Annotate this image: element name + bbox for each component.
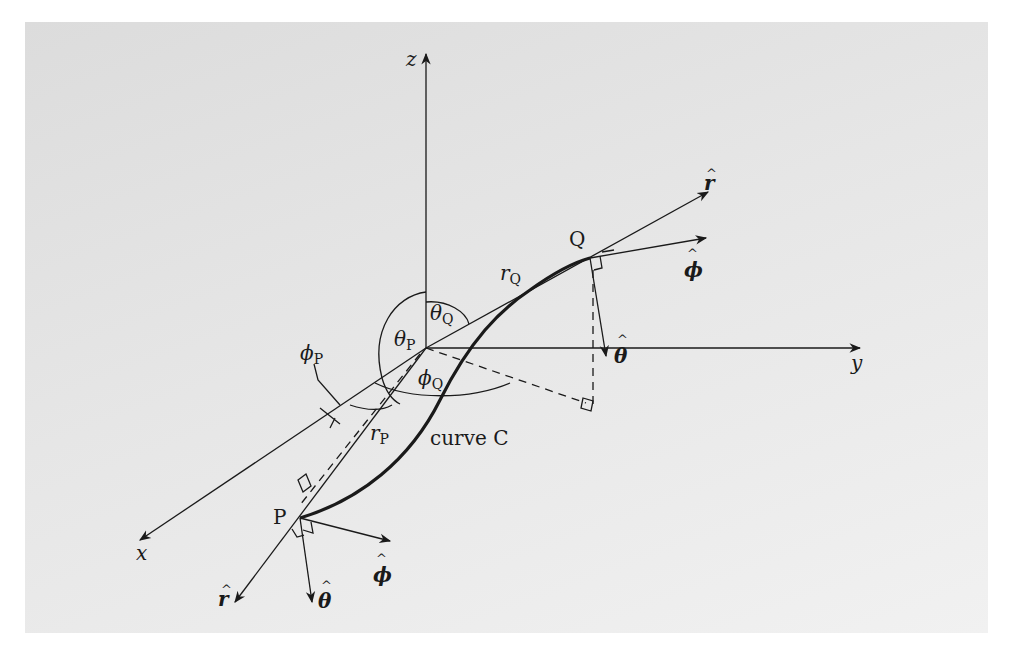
phi-P-bracket	[320, 408, 340, 428]
right-angle-Q-projection	[581, 398, 593, 411]
phi-hat-P-label: ^ ϕ	[373, 551, 392, 587]
right-angle-P-projection	[298, 474, 311, 492]
phi-P-leader	[314, 364, 340, 405]
right-angle-P-2	[303, 522, 313, 533]
radius-P-line	[235, 348, 426, 602]
theta-hat-Q-symbol: θ	[614, 344, 628, 368]
projection-Q-to-origin	[426, 348, 586, 403]
z-axis-label: z	[405, 47, 417, 71]
phi-hat-P-symbol: ϕ	[373, 563, 392, 587]
curve-C-label: curve C	[430, 426, 508, 450]
right-angle-Q-1	[594, 256, 602, 270]
theta-P-label: θP	[394, 327, 415, 353]
phi-hat-P-arrow	[300, 518, 390, 541]
phi-hat-Q-label: ^ ϕ	[684, 246, 703, 282]
phi-hat-Q-symbol: ϕ	[684, 258, 703, 282]
r-hat-Q-label: ^ r	[704, 166, 717, 195]
x-axis-label: x	[136, 541, 147, 565]
phi-Q-label: ϕQ	[418, 366, 443, 392]
y-axis-label: y	[850, 351, 863, 375]
point-P-label: P	[273, 505, 286, 529]
radius-Q-label: rQ	[500, 261, 521, 287]
radius-P-label: rP	[370, 421, 389, 447]
projection-P-to-origin	[300, 354, 420, 505]
theta-hat-Q-label: ^ θ	[614, 332, 628, 368]
spherical-coordinates-diagram: z y x Q P curve C rQ rP θQ θP ϕQ ϕP ^ r …	[0, 0, 1013, 655]
radius-Q-line	[426, 192, 708, 348]
phi-P-arc	[350, 405, 392, 410]
theta-hat-P-symbol: θ	[318, 589, 332, 613]
theta-hat-P-label: ^ θ	[318, 578, 332, 613]
phi-P-label: ϕP	[300, 341, 323, 367]
point-Q-label: Q	[569, 227, 585, 251]
r-hat-P-symbol: r	[218, 587, 230, 611]
curve-C	[300, 258, 590, 518]
r-hat-Q-symbol: r	[704, 171, 716, 195]
r-hat-P-label: ^ r	[218, 582, 232, 611]
